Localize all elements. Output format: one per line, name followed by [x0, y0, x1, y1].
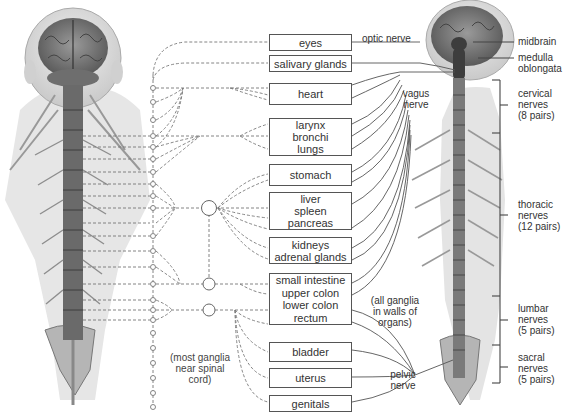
lumbar-nerves-label: lumbar nerves (5 pairs)	[518, 303, 555, 336]
note-line: near spinal	[160, 363, 240, 374]
left-anatomy-figure	[5, 8, 150, 405]
label-line: thoracic	[518, 199, 560, 210]
organ-label: kidneys	[270, 239, 351, 251]
label-line: (12 pairs)	[518, 221, 560, 232]
label-line: (5 pairs)	[518, 325, 555, 336]
label-line: nerves	[518, 363, 555, 374]
organ-label: rectum	[270, 312, 351, 325]
label-line: nerves	[518, 314, 555, 325]
organ-label: upper colon	[270, 287, 351, 300]
label-line: nerves	[518, 210, 560, 221]
organ-box-eyes: eyes	[269, 34, 352, 51]
organ-label: eyes	[270, 37, 351, 49]
label-line: medulla	[518, 52, 562, 63]
organ-label: adrenal glands	[270, 251, 351, 263]
label-line: pelvic	[386, 369, 420, 380]
organ-label: stomach	[270, 169, 351, 181]
label-line: (all ganglia	[365, 295, 425, 306]
organ-label: lower colon	[270, 299, 351, 312]
organ-box-intestine: small intestine upper colon lower colon …	[269, 273, 352, 325]
note-line: (most ganglia	[160, 352, 240, 363]
label-line: sacral	[518, 352, 555, 363]
organ-box-digestive-glands: liver spleen pancreas	[269, 192, 352, 230]
label-line: nerves	[518, 99, 555, 110]
cervical-nerves-label: cervical nerves (8 pairs)	[518, 88, 555, 121]
spinal-cord-right	[453, 78, 465, 378]
organ-box-stomach: stomach	[269, 164, 352, 186]
organ-box-heart: heart	[269, 83, 352, 105]
organ-box-kidneys: kidneys adrenal glands	[269, 237, 352, 264]
label-line: lumbar	[518, 303, 555, 314]
label-line: oblongata	[518, 63, 562, 74]
brain-right	[431, 6, 503, 66]
organ-box-bladder: bladder	[269, 342, 352, 362]
note-line: cord)	[160, 374, 240, 385]
label-line: nerve	[386, 380, 420, 391]
spinal-cord-left	[63, 85, 83, 340]
label-line: (8 pairs)	[518, 110, 555, 121]
organ-box-genitals: genitals	[269, 395, 352, 412]
label-line: cervical	[518, 88, 555, 99]
organ-label: lungs	[270, 143, 351, 155]
optic-nerve-label: optic nerve	[362, 33, 411, 44]
medulla-label: medulla oblongata	[518, 52, 562, 74]
sacral-nerves-label: sacral nerves (5 pairs)	[518, 352, 555, 385]
organ-label: uterus	[270, 372, 351, 384]
sympathetic-ganglia-note: (most ganglia near spinal cord)	[160, 352, 240, 385]
label-line: vagus	[401, 88, 431, 99]
label-line: in walls of	[365, 306, 425, 317]
right-anatomy-figure	[412, 0, 514, 405]
organ-label: liver	[270, 193, 351, 205]
organ-label: bronchi	[270, 131, 351, 143]
organ-label: larynx	[270, 119, 351, 131]
pelvic-nerve-label: pelvic nerve	[386, 369, 420, 391]
organ-label: small intestine	[270, 274, 351, 287]
organ-label: spleen	[270, 205, 351, 217]
organ-box-salivary-glands: salivary glands	[269, 55, 352, 72]
parasympathetic-ganglia-note: (all ganglia in walls of organs)	[365, 295, 425, 328]
organ-label: pancreas	[270, 217, 351, 229]
thoracic-nerves-label: thoracic nerves (12 pairs)	[518, 199, 560, 232]
label-line: (5 pairs)	[518, 374, 555, 385]
label-line: nerve	[401, 99, 431, 110]
organ-box-uterus: uterus	[269, 368, 352, 388]
organ-label: salivary glands	[270, 58, 351, 70]
vagus-nerve-label: vagus nerve	[401, 88, 431, 110]
organ-label: genitals	[270, 398, 351, 410]
midbrain-label: midbrain	[518, 36, 556, 47]
label-line: organs)	[365, 317, 425, 328]
organ-label: bladder	[270, 346, 351, 358]
organ-box-respiratory: larynx bronchi lungs	[269, 118, 352, 156]
organ-label: heart	[270, 88, 351, 100]
